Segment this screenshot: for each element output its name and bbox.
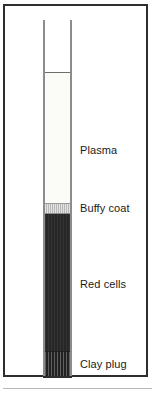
tube-layer-air (45, 20, 70, 72)
bottom-divider-rule (3, 388, 152, 389)
label-buffy-coat: Buffy coat (80, 202, 130, 214)
capillary-tube (43, 20, 72, 378)
tube-layer-buffy-coat (45, 203, 70, 214)
label-clay-plug: Clay plug (80, 358, 127, 370)
label-red-cells: Red cells (80, 278, 126, 290)
plasma-meniscus-line (43, 72, 72, 73)
tube-layer-red-cells (45, 214, 70, 351)
tube-layer-plasma (45, 73, 70, 203)
tube-layer-clay-plug (45, 351, 70, 376)
tube-wall-right (70, 20, 72, 378)
figure-frame: Plasma Buffy coat Red cells Clay plug (3, 4, 148, 377)
tube-wall-left (43, 20, 45, 378)
label-plasma: Plasma (80, 144, 117, 156)
tube-bottom-cap (43, 376, 72, 378)
